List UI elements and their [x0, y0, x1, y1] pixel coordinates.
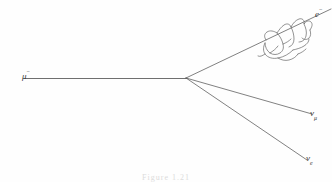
label-muon: μ− — [22, 66, 30, 82]
label-muon-superscript: − — [27, 68, 30, 74]
decay-diagram-svg — [0, 0, 332, 182]
label-nu-e: νe — [306, 148, 313, 166]
label-nu-mu-subscript: μ — [314, 115, 317, 121]
label-electron: e− — [315, 4, 322, 20]
figure-caption: Figure 1.21 — [0, 173, 332, 182]
nu-mu-line — [186, 78, 312, 114]
label-nu-mu: νμ — [310, 103, 317, 121]
label-nu-e-subscript: e — [310, 160, 313, 166]
label-electron-superscript: − — [319, 6, 322, 12]
electron-line — [186, 9, 331, 78]
nu-e-line — [186, 78, 307, 160]
figure-canvas: μ− e− νμ νe Figure 1.21 — [0, 0, 332, 182]
